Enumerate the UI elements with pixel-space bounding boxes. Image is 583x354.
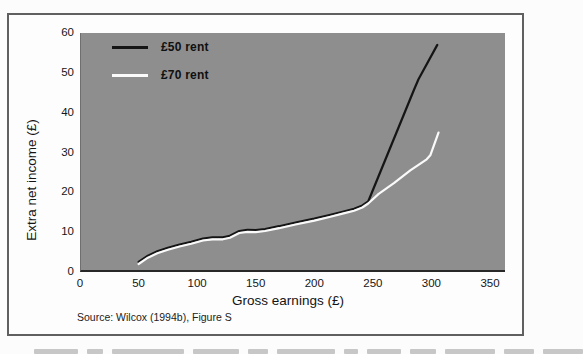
x-tick-label: 100 — [175, 277, 219, 289]
x-tick-label: 350 — [468, 277, 512, 289]
y-tick-label: 30 — [38, 146, 74, 158]
x-tick-label: 200 — [292, 277, 336, 289]
x-tick-label: 0 — [58, 277, 102, 289]
x-axis-title: Gross earnings (£) — [232, 293, 344, 308]
line-chart — [80, 33, 505, 272]
x-tick-label: 250 — [351, 277, 395, 289]
cropped-caption-fragment — [34, 349, 583, 354]
y-axis-title: Extra net income (£) — [24, 119, 39, 241]
x-tick-label: 50 — [117, 277, 161, 289]
x-tick-label: 150 — [234, 277, 278, 289]
y-tick-label: 0 — [38, 265, 74, 277]
y-tick-label: 10 — [38, 225, 74, 237]
x-tick-label: 300 — [409, 277, 453, 289]
series-line-50rent — [139, 45, 438, 262]
y-tick-label: 20 — [38, 185, 74, 197]
y-tick-label: 40 — [38, 106, 74, 118]
y-tick-label: 50 — [38, 66, 74, 78]
source-note: Source: Wilcox (1994b), Figure S — [77, 311, 232, 323]
y-tick-label: 60 — [38, 26, 74, 38]
